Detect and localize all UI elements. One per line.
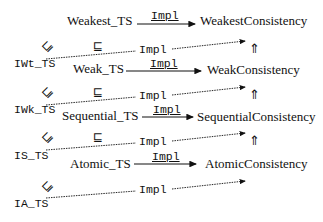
refinement-diagram: Weakest_TS Impl WeakestConsistency ⊑ ⊑ I… <box>0 0 323 222</box>
impl-arrow-label: Impl <box>153 104 181 116</box>
atomic-ts-label: Atomic_TS <box>70 157 131 170</box>
is-ts-label: IS_TS <box>14 150 49 162</box>
implies-up-icon: ⇑ <box>249 42 260 55</box>
weak-consistency-label: WeakConsistency <box>207 63 300 76</box>
weakest-consistency-label: WeakestConsistency <box>200 14 307 27</box>
implies-up-icon: ⇑ <box>249 134 260 147</box>
weakest-ts-label: Weakest_TS <box>67 14 132 27</box>
weak-ts-label: Weak_TS <box>73 62 124 75</box>
implies-up-icon: ⇑ <box>249 88 260 101</box>
impl-dashed-label: Impl <box>139 90 167 102</box>
impl-arrow-label: Impl <box>151 10 179 22</box>
impl-dashed-label: Impl <box>139 136 167 148</box>
atomic-consistency-label: AtomicConsistency <box>205 157 308 170</box>
iwk-ts-label: IWk_TS <box>14 104 55 116</box>
impl-arrow-label: Impl <box>152 151 180 163</box>
impl-arrow-label: Impl <box>150 58 178 70</box>
sequential-ts-label: Sequential_TS <box>62 109 139 122</box>
ia-ts-label: IA_TS <box>14 198 49 210</box>
iwt-ts-label: IWt_TS <box>14 58 55 70</box>
impl-dashed-label: Impl <box>139 44 167 56</box>
refines-icon: ⊑ <box>93 40 103 52</box>
impl-dashed-label: Impl <box>139 184 167 196</box>
sequential-consistency-label: SequentialConsistency <box>197 110 315 123</box>
refines-icon: ⊑ <box>93 86 103 98</box>
refines-icon: ⊑ <box>93 131 103 143</box>
